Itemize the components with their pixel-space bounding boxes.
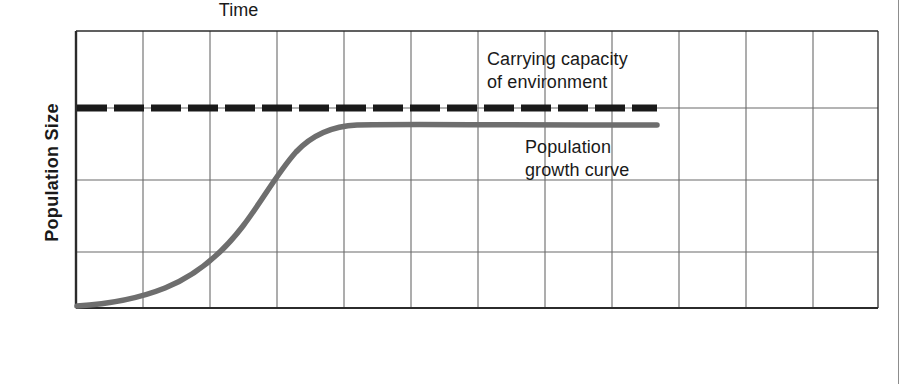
plot-frame (76, 31, 878, 308)
plot-area (0, 0, 907, 384)
logistic-growth-figure: Carrying capacity of environment Populat… (0, 0, 907, 384)
horizontal-gridlines (76, 108, 878, 252)
vertical-gridlines (143, 31, 813, 308)
carrying-capacity-annotation: Carrying capacity of environment (487, 48, 628, 94)
y-axis-title: Population Size (42, 43, 63, 303)
growth-curve-annotation: Population growth curve (525, 136, 629, 182)
